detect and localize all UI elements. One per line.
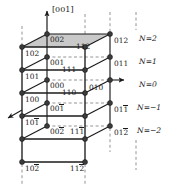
miller-label-mid-n0: 110 (62, 89, 76, 96)
miller-label-left-n0: 101 (25, 73, 39, 80)
miller-label-top-face-right: 112 (76, 43, 90, 50)
miller-label-right-nm2: 012 (114, 129, 128, 136)
miller-label-right-n0: 010 (89, 84, 103, 91)
miller-label-top-face-left: 002 (50, 36, 64, 43)
lattice-drawing (0, 0, 178, 188)
miller-label-inner-nm2: 002 (50, 128, 64, 135)
miller-label-right-n2: 012 (114, 37, 128, 44)
layer-label-n1: N=1 (139, 58, 157, 66)
axis-label-001: [001] (52, 6, 74, 14)
miller-label-bottom-left: 102 (25, 165, 39, 172)
layer-label-nm2: N=−2 (137, 127, 161, 135)
miller-label-right-n1: 011 (114, 60, 128, 67)
layer-label-n2: N=2 (139, 35, 157, 43)
miller-label-mid-n1: 111 (62, 66, 76, 73)
layer-label-nm1: N=−1 (137, 104, 161, 112)
miller-label-right-nm1: 011 (114, 106, 128, 113)
layer-label-n0: N=0 (139, 81, 157, 89)
figure-canvas: [001] 002 112 012 102 001 111 011 101 00… (0, 0, 178, 188)
miller-label-left-nm2: 101 (25, 119, 39, 126)
miller-label-left-nm1: 100 (25, 96, 39, 103)
miller-label-left-n1: 102 (25, 50, 39, 57)
miller-label-mid-nm2: 111 (70, 128, 84, 135)
miller-label-bottom-mid: 112 (70, 165, 84, 172)
miller-label-inner-nm1: 001 (50, 105, 64, 112)
